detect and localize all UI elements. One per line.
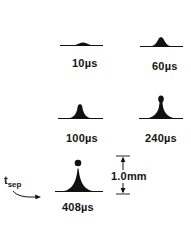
label-100us: 100µs xyxy=(66,133,98,144)
panel-240us-profile xyxy=(139,95,183,118)
panel-100us-profile xyxy=(58,104,103,118)
label-240us: 240µs xyxy=(145,133,177,144)
tsep-arrow xyxy=(13,191,41,199)
tsep-label: tsep xyxy=(4,175,21,190)
arrow-up-icon xyxy=(121,157,126,163)
panel-60us-profile xyxy=(140,37,183,46)
tsep-subscript: sep xyxy=(8,180,22,189)
scale-bar-label: 1.0mm xyxy=(110,171,148,182)
label-408us: 408µs xyxy=(62,202,94,213)
label-60us: 60µs xyxy=(152,61,178,72)
arrow-down-icon xyxy=(121,188,126,194)
separated-droplet-icon xyxy=(75,160,82,167)
panel-10us-profile xyxy=(60,42,103,45)
label-10us: 10µs xyxy=(72,58,98,69)
arrow-right-icon xyxy=(35,195,41,200)
drop-evolution-diagram xyxy=(0,0,191,233)
panel-408us-profile xyxy=(55,160,103,192)
